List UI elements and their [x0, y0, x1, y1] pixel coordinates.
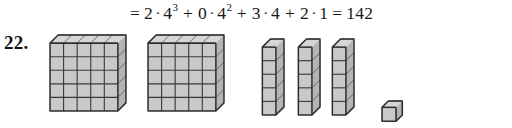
cube-block-1	[49, 34, 128, 113]
unit-cube	[381, 100, 404, 123]
column-block-3	[331, 38, 356, 117]
base-four-blocks-figure	[0, 0, 512, 128]
column-block-2	[297, 38, 322, 117]
column-block-1	[261, 38, 286, 117]
cube-block-2	[147, 34, 226, 113]
